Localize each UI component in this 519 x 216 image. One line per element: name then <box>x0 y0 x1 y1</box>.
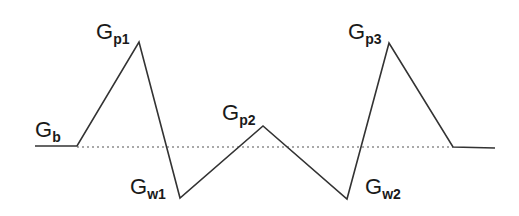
label-gp3: Gp3 <box>348 19 382 47</box>
label-gp1: Gp1 <box>96 19 130 47</box>
signal-waveform <box>35 42 495 199</box>
label-gw1: Gw1 <box>130 174 166 202</box>
label-gw2: Gw2 <box>365 174 401 202</box>
waveform-diagram: Gb Gp1 Gw1 Gp2 Gw2 Gp3 <box>0 0 519 216</box>
label-gb: Gb <box>35 117 61 145</box>
label-gp2: Gp2 <box>222 100 256 128</box>
